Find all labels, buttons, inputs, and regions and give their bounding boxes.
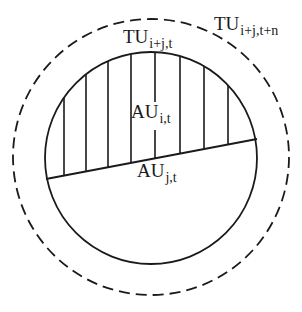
label-hatched-region: AUi,t [131,102,171,121]
label-outer-main: TU [214,13,239,34]
label-lower-region: AUj,t [137,161,177,180]
label-inner-sub: i+j,t [149,36,172,51]
outer-circle-tu-i-j-t-n [13,19,289,295]
label-lower-sub: j,t [165,170,176,185]
label-hatched-sub: i,t [159,111,170,126]
label-hatched-main: AU [131,101,158,122]
label-inner-circle: TUi+j,t [123,27,172,46]
label-inner-main: TU [123,26,148,47]
label-outer-sub: i+j,t+n [240,23,278,38]
label-lower-main: AU [137,160,164,181]
inner-circle-tu-i-j-t [45,52,257,264]
label-outer-circle: TUi+j,t+n [214,14,278,33]
